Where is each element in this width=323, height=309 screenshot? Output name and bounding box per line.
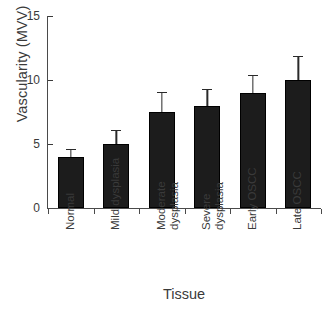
bar-chart-figure: Vascularity (MVV) 0 5 10 15 NormalMild d… [0,0,323,309]
x-tick-mark [230,209,231,214]
y-tick-label: 10 [18,73,40,87]
x-tick-mark [321,209,322,214]
x-tick-mark [185,209,186,214]
x-category-label: Moderatedysplasia [155,216,169,241]
x-tick-mark [48,209,49,214]
x-category-label: Normal [64,216,78,229]
error-bar-cap [293,56,303,57]
error-bar-cap [202,89,212,90]
x-tick-mark [276,209,277,214]
error-bar-cap [248,75,258,76]
x-axis-title: Tissue [47,286,321,302]
error-bar-stem [298,57,299,80]
x-category-label: Severedysplasia [200,216,214,241]
bar-group [48,16,94,208]
x-tick-mark [139,209,140,214]
bar-group [185,16,231,208]
y-tick-label: 15 [18,9,40,23]
error-bar-stem [207,90,208,105]
error-bar-stem [70,150,71,156]
plot-area [48,16,321,208]
y-tick-label: 5 [18,137,40,151]
x-category-label: Early OSCC [246,216,260,229]
y-axis-tick-labels: 0 5 10 15 [18,0,40,309]
y-tick-label: 0 [18,201,40,215]
x-category-label: Mild dysplasia [109,216,123,229]
error-bar-cap [111,130,121,131]
error-bar-stem [252,76,253,93]
error-bar-stem [161,93,162,112]
error-bar-cap [66,149,76,150]
x-category-label: Late OSCC [291,216,305,229]
x-tick-mark [94,209,95,214]
error-bar-stem [116,131,117,144]
bar-group [139,16,185,208]
error-bar-cap [157,92,167,93]
